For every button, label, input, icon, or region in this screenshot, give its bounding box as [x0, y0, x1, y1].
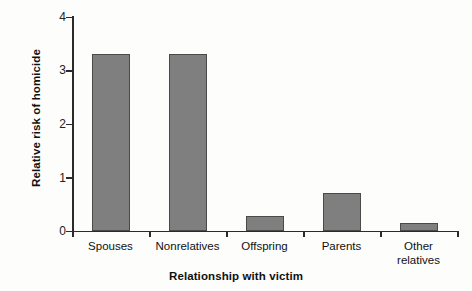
x-label-parents: Parents [303, 240, 380, 254]
x-tick-mark-2 [226, 231, 228, 237]
x-label-nonrelatives: Nonrelatives [149, 240, 226, 254]
y-tick-label-1: 1 [44, 172, 66, 184]
x-label-offspring: Offspring [226, 240, 303, 254]
y-tick-label-3: 3 [44, 64, 66, 76]
x-tick-mark-3 [303, 231, 305, 237]
bar-nonrelatives [169, 54, 207, 231]
y-tick-label-2: 2 [44, 118, 66, 130]
bar-offspring [246, 216, 284, 231]
x-tick-mark-1 [149, 231, 151, 237]
bar-chart: Relative risk of homicide 4 3 2 1 0 Spou… [0, 0, 472, 291]
bar-spouses [92, 54, 130, 231]
y-tick-label-4: 4 [44, 11, 66, 23]
x-tick-mark-4 [380, 231, 382, 237]
x-tick-mark-5 [457, 231, 459, 237]
bar-other-relatives [400, 223, 438, 231]
x-axis-title: Relationship with victim [0, 270, 472, 282]
y-tick-label-0: 0 [44, 225, 66, 237]
x-label-other-relatives: Other relatives [380, 240, 457, 267]
x-label-spouses: Spouses [72, 240, 149, 254]
bar-parents [323, 193, 361, 231]
y-axis-line [72, 16, 74, 232]
x-label-other-relatives-line1: Other [380, 240, 457, 254]
x-label-other-relatives-line2: relatives [380, 254, 457, 268]
y-axis-title: Relative risk of homicide [30, 18, 42, 218]
x-tick-mark-0 [72, 231, 74, 237]
